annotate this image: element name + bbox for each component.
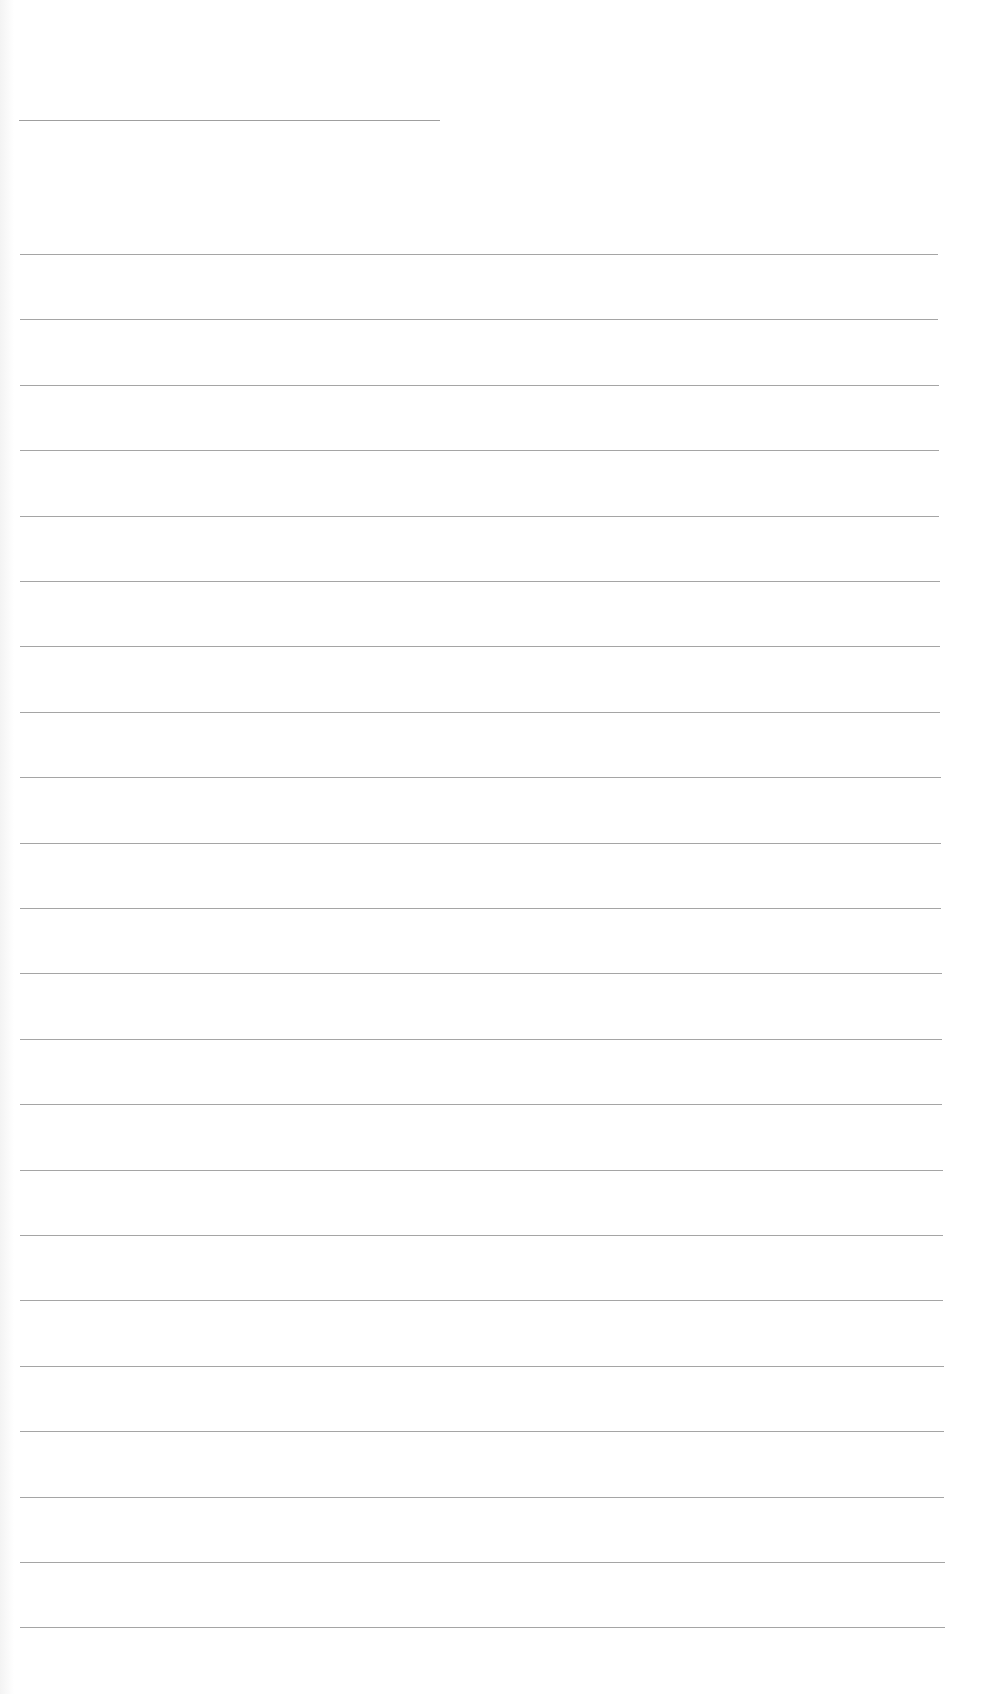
ruled-line — [20, 973, 942, 974]
ruled-line — [20, 1170, 943, 1171]
ruled-line — [20, 1562, 945, 1563]
ruled-line — [20, 254, 938, 255]
ruled-line — [20, 516, 939, 517]
ruled-line — [20, 712, 940, 713]
ruled-line — [20, 908, 941, 909]
ruled-line — [20, 843, 941, 844]
ruled-line — [20, 450, 939, 451]
ruled-line — [20, 1627, 945, 1628]
ruled-line — [20, 1300, 943, 1301]
ruled-line — [20, 1366, 944, 1367]
ruled-line — [20, 319, 938, 320]
ruled-line — [20, 777, 941, 778]
ruled-line — [20, 1497, 944, 1498]
ruled-line — [20, 1235, 943, 1236]
ruled-paper-page — [0, 0, 989, 1694]
ruled-line — [20, 1431, 944, 1432]
ruled-line — [20, 1039, 942, 1040]
header-rule-line — [19, 120, 440, 121]
ruled-line — [20, 385, 939, 386]
ruled-line — [20, 1104, 942, 1105]
ruled-line — [20, 646, 940, 647]
ruled-line — [20, 581, 940, 582]
